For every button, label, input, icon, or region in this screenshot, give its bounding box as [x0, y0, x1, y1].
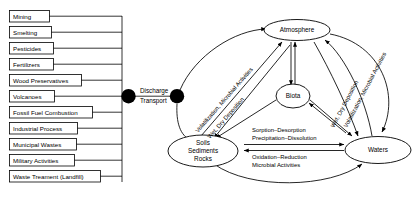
source-item-industrial-process[interactable]: Industrial Process: [10, 123, 123, 135]
node-waters[interactable]: Waters: [345, 137, 411, 164]
source-label: Smelting: [13, 29, 38, 36]
source-label: Waste Treament (Landfill): [13, 173, 84, 180]
discharge-transport-hub[interactable]: Discharge Transport: [121, 87, 184, 104]
source-label: Municipal Wastes: [13, 141, 61, 148]
source-item-military-activities[interactable]: Military Activities: [10, 155, 123, 167]
edge-hub-to-soils: [177, 104, 191, 140]
source-label: Volcanoes: [13, 93, 42, 100]
label-sorption-desorption: Sorption–Desorption: [252, 127, 306, 133]
environment-cycle: Atmosphere Biota Soils Sediments Rocks W…: [168, 20, 411, 183]
node-atmosphere-label: Atmosphere: [280, 26, 315, 34]
source-label: Fossil Fuel Combustion: [13, 109, 78, 116]
source-label: Military Activities: [13, 157, 58, 164]
label-microbial-activities: Microbial Activities: [252, 162, 300, 168]
node-atmosphere[interactable]: Atmosphere: [264, 20, 330, 41]
node-soils-sediments-rocks[interactable]: Soils Sediments Rocks: [168, 135, 238, 167]
hub-label-line2: Transport: [140, 97, 167, 105]
node-biota[interactable]: Biota: [276, 84, 310, 108]
source-label: Wood Preservatives: [13, 77, 68, 84]
node-soils-label-line3: Rocks: [194, 155, 212, 162]
figure-container: Mining Smelting Pesticides Fertilizers: [0, 0, 418, 200]
source-item-pesticides[interactable]: Pesticides: [10, 43, 123, 55]
hub-dot-right-icon: [170, 89, 184, 103]
node-soils-label-line1: Soils: [196, 139, 210, 146]
edge-hub-to-atmosphere: [180, 29, 266, 90]
source-item-mining[interactable]: Mining: [10, 11, 123, 23]
source-label: Pesticides: [13, 45, 41, 52]
hub-label-line1: Discharge: [140, 87, 169, 95]
diagram-svg: Mining Smelting Pesticides Fertilizers: [0, 0, 418, 200]
hub-dot-left-icon: [121, 89, 135, 103]
node-biota-label: Biota: [286, 92, 301, 99]
source-item-fertilizers[interactable]: Fertilizers: [10, 59, 123, 71]
label-precipitation-dissolution: Precipitation–Dissolution: [252, 135, 317, 141]
source-item-volcanoes[interactable]: Volcanoes: [10, 91, 123, 103]
source-item-fossil-fuel-combustion[interactable]: Fossil Fuel Combustion: [10, 107, 123, 119]
source-item-smelting[interactable]: Smelting: [10, 27, 123, 39]
label-oxidation-reduction: Oxidation–Reduction: [252, 154, 307, 160]
source-item-waste-treatment-landfill[interactable]: Waste Treament (Landfill): [10, 171, 123, 183]
source-item-wood-preservatives[interactable]: Wood Preservatives: [10, 75, 123, 87]
source-label: Fertilizers: [13, 61, 40, 68]
node-soils-label-line2: Sediments: [188, 147, 218, 154]
source-label: Mining: [13, 13, 32, 20]
source-label: Industrial Process: [13, 125, 62, 132]
node-waters-label: Waters: [368, 146, 388, 153]
source-item-municipal-wastes[interactable]: Municipal Wastes: [10, 139, 123, 151]
source-list: Mining Smelting Pesticides Fertilizers: [10, 11, 123, 183]
